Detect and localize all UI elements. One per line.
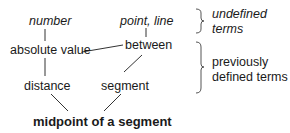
brace-undefined-icon [196,9,204,33]
node-number: number [29,14,71,28]
node-segment: segment [101,79,149,93]
edge-between-segment [124,55,142,72]
annotation-previously: previously [212,55,268,69]
annotation-undefined: undefined [212,7,267,21]
node-between: between [125,38,172,52]
node-absolute-value: absolute value [10,43,91,57]
node-point-line: point, line [120,14,174,28]
node-distance: distance [24,79,71,93]
annotation-defined-terms: defined terms [212,70,288,84]
node-midpoint-of-a-segment: midpoint of a segment [33,115,172,129]
annotation-terms: terms [212,22,243,36]
edge-distance-midpoint [51,94,68,111]
brace-previously-defined-icon [196,42,204,93]
edge-segment-midpoint [104,94,121,111]
